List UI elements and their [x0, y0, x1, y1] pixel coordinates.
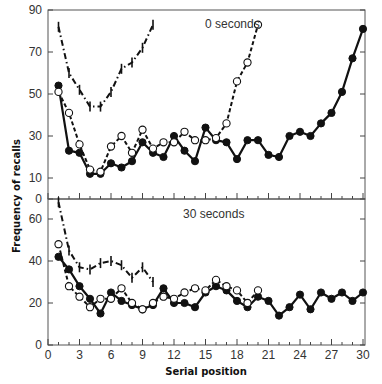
series-line-open-circles-dashed [59, 25, 259, 172]
data-point-open [118, 132, 125, 139]
data-point-filled [296, 291, 303, 298]
data-point-open [223, 283, 230, 290]
y-tick-label: 10 [29, 171, 43, 185]
data-point-open [212, 276, 219, 283]
data-point-filled [107, 160, 114, 167]
data-point-filled [286, 132, 293, 139]
data-point-filled [349, 55, 356, 62]
data-point-open [160, 139, 167, 146]
data-point-open [139, 126, 146, 133]
data-point-open [55, 241, 62, 248]
data-point-filled [233, 156, 240, 163]
data-point-filled [118, 164, 125, 171]
x-tick-label: 12 [167, 348, 181, 362]
y-tick-label: 0 [35, 338, 42, 352]
data-point-open [118, 285, 125, 292]
data-point-open [86, 166, 93, 173]
data-point-open [76, 141, 83, 148]
data-point-filled [65, 266, 72, 273]
series-line-ticks-dashdot [59, 25, 154, 107]
data-point-filled [296, 128, 303, 135]
data-point-open [149, 145, 156, 152]
data-point-open [160, 293, 167, 300]
data-point-filled [328, 295, 335, 302]
lower-panel-label: 30 seconds [183, 207, 244, 221]
x-tick-label: 18 [230, 348, 244, 362]
upper-panel-label: 0 seconds [205, 17, 260, 31]
plot-frame [48, 10, 365, 199]
data-point-filled [76, 283, 83, 290]
data-point-filled [307, 132, 314, 139]
x-tick-label: 27 [325, 348, 339, 362]
data-point-open [202, 137, 209, 144]
y-tick-label: 60 [29, 212, 43, 226]
data-point-filled [191, 158, 198, 165]
data-point-open [191, 137, 198, 144]
data-point-open [149, 299, 156, 306]
data-point-open [76, 293, 83, 300]
x-tick-label: 0 [45, 348, 52, 362]
y-tick-label: 40 [29, 254, 43, 268]
data-point-open [254, 287, 261, 294]
data-point-filled [160, 153, 167, 160]
data-point-open [65, 109, 72, 116]
data-point-open [202, 287, 209, 294]
data-point-filled [65, 147, 72, 154]
data-point-filled [338, 289, 345, 296]
data-point-open [191, 285, 198, 292]
data-point-filled [181, 147, 188, 154]
x-tick-label: 3 [76, 348, 83, 362]
x-tick-label: 30 [356, 348, 370, 362]
data-point-filled [275, 312, 282, 319]
serial-position-chart: 01030507090 0204060 036912151821242730 0… [0, 0, 382, 384]
data-point-open [128, 299, 135, 306]
data-point-filled [128, 158, 135, 165]
x-axis-title: Serial position [165, 366, 247, 377]
data-point-filled [328, 109, 335, 116]
data-point-filled [86, 295, 93, 302]
y-tick-label: 90 [29, 3, 43, 17]
data-point-open [97, 295, 104, 302]
data-point-open [244, 299, 251, 306]
data-point-open [244, 59, 251, 66]
data-point-open [107, 295, 114, 302]
data-point-filled [349, 297, 356, 304]
data-point-filled [317, 289, 324, 296]
x-tick-label: 24 [293, 348, 307, 362]
x-tick-label: 21 [262, 348, 276, 362]
data-point-filled [202, 124, 209, 131]
data-point-filled [359, 289, 366, 296]
data-point-open [181, 289, 188, 296]
data-point-open [170, 139, 177, 146]
upper-panel-0-seconds: 01030507090 [29, 3, 367, 206]
data-point-open [86, 304, 93, 311]
data-point-open [128, 149, 135, 156]
data-point-filled [139, 139, 146, 146]
y-tick-label: 20 [29, 296, 43, 310]
data-point-open [139, 306, 146, 313]
data-point-open [97, 168, 104, 175]
data-point-filled [97, 310, 104, 317]
x-axis: 036912151821242730 [45, 348, 370, 362]
data-point-filled [181, 299, 188, 306]
data-point-open [170, 295, 177, 302]
data-point-open [223, 120, 230, 127]
data-point-filled [254, 137, 261, 144]
data-point-open [55, 88, 62, 95]
x-tick-label: 6 [108, 348, 115, 362]
data-point-filled [265, 151, 272, 158]
y-tick-label: 0 [35, 192, 42, 206]
data-point-open [212, 135, 219, 142]
data-point-open [107, 143, 114, 150]
data-point-filled [223, 139, 230, 146]
data-point-open [233, 287, 240, 294]
data-point-filled [118, 297, 125, 304]
y-axis-title: Frequency of recalls [11, 139, 22, 253]
data-point-filled [286, 304, 293, 311]
y-tick-label: 30 [29, 129, 43, 143]
data-point-open [181, 128, 188, 135]
data-point-filled [233, 297, 240, 304]
data-point-filled [338, 88, 345, 95]
x-tick-label: 9 [139, 348, 146, 362]
data-point-filled [275, 153, 282, 160]
